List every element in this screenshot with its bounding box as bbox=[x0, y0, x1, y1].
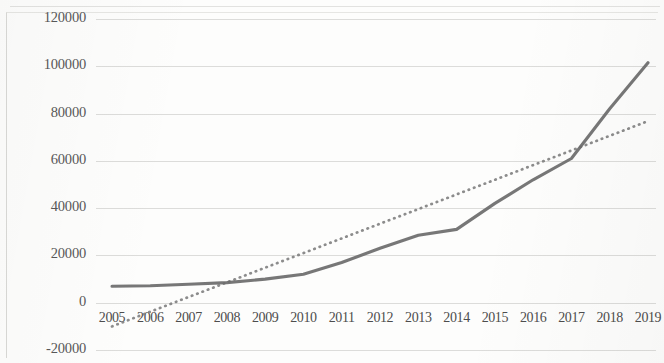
chart-container: 120000100000800006000040000200000-20000 … bbox=[0, 0, 664, 363]
plot-area: 120000100000800006000040000200000-20000 … bbox=[0, 0, 664, 363]
chart-series-layer bbox=[0, 0, 664, 363]
primary-data-series bbox=[112, 63, 648, 287]
trendline-series bbox=[112, 121, 648, 326]
